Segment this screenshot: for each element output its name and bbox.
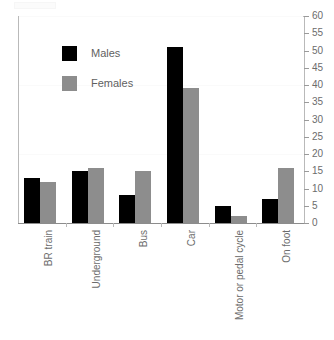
- y-axis-tick-label: 0: [312, 218, 318, 228]
- y-axis-tick-label: 25: [312, 132, 323, 142]
- y-axis-tick: [304, 154, 309, 155]
- x-axis-label-motor-or-pedal-cycle: Motor or pedal cycle: [235, 230, 245, 320]
- x-axis-label-underground: Underground: [92, 230, 102, 288]
- y-axis-tick: [304, 16, 309, 17]
- bar-males: [24, 178, 40, 223]
- bar-males: [215, 206, 231, 223]
- y-axis-tick-label: 45: [312, 63, 323, 73]
- y-axis-tick: [304, 85, 309, 86]
- x-axis-label-bus: Bus: [139, 230, 149, 247]
- y-axis-tick: [304, 171, 309, 172]
- y-axis-tick: [304, 120, 309, 121]
- bar-males: [72, 171, 88, 223]
- x-axis-tick: [256, 223, 257, 227]
- x-axis-tick: [66, 223, 67, 227]
- y-axis-tick-label: 20: [312, 149, 323, 159]
- y-axis-tick: [304, 51, 309, 52]
- y-axis-tick-label: 5: [312, 201, 318, 211]
- bar-chart-figure: 051015202530354045505560 BR trainUndergr…: [0, 0, 334, 340]
- y-axis-tick: [304, 206, 309, 207]
- bar-females: [231, 216, 247, 223]
- y-axis-tick-label: 55: [312, 28, 323, 38]
- y-axis-tick-label: 35: [312, 97, 323, 107]
- y-axis-tick-label: 50: [312, 46, 323, 56]
- y-axis-tick: [304, 68, 309, 69]
- bar-females: [88, 168, 104, 223]
- y-axis-tick-label: 60: [312, 11, 323, 21]
- x-axis-label-br-train: BR train: [44, 230, 54, 266]
- y-axis-tick: [304, 223, 309, 224]
- y-axis-tick: [304, 137, 309, 138]
- x-axis-tick: [113, 223, 114, 227]
- x-axis-tick: [209, 223, 210, 227]
- bar-females: [135, 171, 151, 223]
- legend-item-males: Males: [62, 42, 172, 64]
- legend-swatch-females-icon: [62, 76, 77, 91]
- bar-females: [40, 182, 56, 223]
- bar-group: [262, 16, 294, 223]
- y-axis-tick-label: 40: [312, 80, 323, 90]
- bar-females: [183, 88, 199, 223]
- y-axis-tick-label: 30: [312, 115, 323, 125]
- x-axis-tick: [161, 223, 162, 227]
- y-axis-tick: [304, 189, 309, 190]
- legend-swatch-males-icon: [62, 46, 77, 61]
- top-left-artifact: [14, 2, 56, 9]
- legend-item-females: Females: [62, 72, 172, 94]
- bar-females: [278, 168, 294, 223]
- chart-legend: Males Females: [62, 42, 172, 102]
- bar-males: [119, 195, 135, 223]
- x-axis-label-car: Car: [187, 230, 197, 246]
- bar-males: [262, 199, 278, 223]
- legend-label-males: Males: [91, 48, 120, 59]
- bar-group: [215, 16, 247, 223]
- legend-label-females: Females: [91, 78, 133, 89]
- y-axis-tick: [304, 102, 309, 103]
- y-axis-tick: [304, 33, 309, 34]
- bar-group: [24, 16, 56, 223]
- y-axis-tick-label: 15: [312, 166, 323, 176]
- x-axis-label-on-foot: On foot: [282, 230, 292, 263]
- y-axis-tick-label: 10: [312, 184, 323, 194]
